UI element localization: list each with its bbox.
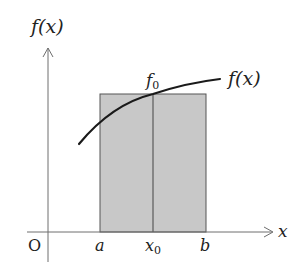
x0-subscript: 0 <box>154 244 161 257</box>
x0-main: x <box>145 236 154 255</box>
curve-label: f(x) <box>226 67 261 89</box>
x0-label: x0 <box>145 236 161 257</box>
origin-label: O <box>28 236 41 255</box>
f0-label: f0 <box>144 70 159 92</box>
f0-subscript: 0 <box>152 79 159 92</box>
y-axis-label: f(x) <box>29 15 64 37</box>
x-axis-label: x <box>278 221 288 241</box>
b-label: b <box>200 236 210 255</box>
a-label: a <box>95 236 105 255</box>
mean-value-diagram: f(x) x O a x0 b f0 f(x) <box>0 0 308 279</box>
